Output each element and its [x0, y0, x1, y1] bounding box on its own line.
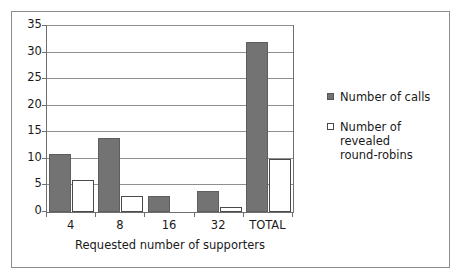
legend-entry-number-of-revealed-round-robins: Number of revealed round-robins [327, 120, 451, 162]
bar-total-series-1 [246, 42, 268, 212]
x-tick-label: 8 [116, 219, 123, 232]
y-tick-label: 25 [27, 72, 42, 84]
legend-swatch-filled-icon [327, 93, 334, 100]
x-axis-title: Requested number of supporters [46, 238, 294, 252]
y-tick-label: 20 [27, 99, 42, 111]
x-tick-mark [144, 213, 145, 217]
legend-swatch-hollow-icon [327, 123, 334, 130]
y-axis-labels: 05101520253035 [14, 25, 42, 213]
x-axis-labels: 481632TOTAL [46, 219, 294, 235]
x-tick-label: 16 [162, 219, 177, 232]
y-tick-label: 5 [35, 179, 42, 191]
y-tick-label: 10 [27, 152, 42, 164]
x-tick-label: 32 [211, 219, 226, 232]
bar-32-series-1 [197, 191, 219, 212]
legend-label: Number of revealed round-robins [340, 120, 451, 162]
x-tick-mark [194, 213, 195, 217]
x-tick-mark [292, 213, 293, 217]
y-tick-label: 15 [27, 126, 42, 138]
bar-total-series-2 [269, 159, 291, 212]
bar-chart-figure: 05101520253035 481632TOTAL Requested num… [0, 0, 461, 280]
bar-8-series-2 [121, 196, 143, 212]
legend-label: Number of calls [340, 90, 451, 104]
x-tick-mark [95, 213, 96, 217]
bar-32-series-2 [220, 207, 242, 212]
gridline [47, 25, 293, 26]
bar-16-series-1 [148, 196, 170, 212]
y-tick-label: 35 [27, 19, 42, 31]
x-tick-label: TOTAL [249, 219, 285, 232]
y-tick-label: 30 [27, 46, 42, 58]
y-tick-label: 0 [35, 205, 42, 217]
bar-4-series-1 [49, 154, 71, 212]
bar-4-series-2 [72, 180, 94, 212]
x-tick-mark [243, 213, 244, 217]
x-axis-tick-marks [46, 213, 294, 217]
plot-area [46, 25, 294, 213]
bar-8-series-1 [98, 138, 120, 212]
legend-entry-number-of-calls: Number of calls [327, 90, 451, 104]
x-tick-label: 4 [67, 219, 74, 232]
chart-legend: Number of calls Number of revealed round… [327, 90, 451, 178]
x-tick-mark [46, 213, 47, 217]
